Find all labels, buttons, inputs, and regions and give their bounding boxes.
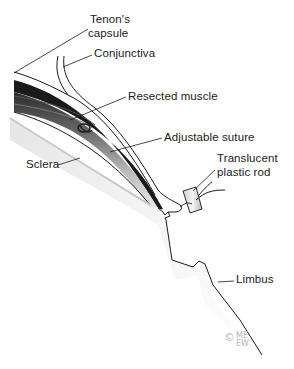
- copyright-symbol: ©: [224, 334, 235, 342]
- leader-adjustable-suture: [110, 138, 162, 152]
- label-translucent-rod-line2: plastic rod: [217, 165, 271, 179]
- copyright-mark-line2: EW: [236, 340, 249, 348]
- label-tenons-capsule-line1: Tenon's: [90, 12, 130, 26]
- label-resected-muscle: Resected muscle: [128, 89, 218, 103]
- label-sclera: Sclera: [26, 157, 59, 171]
- leader-translucent-rod: [193, 170, 215, 191]
- leader-tenons-capsule: [14, 29, 88, 73]
- plastic-rod: [180, 182, 225, 213]
- diagram-canvas: Tenon's capsule Conjunctiva Resected mus…: [0, 0, 294, 369]
- label-adjustable-suture: Adjustable suture: [164, 130, 255, 144]
- label-conjunctiva: Conjunctiva: [94, 46, 155, 60]
- leader-conjunctiva: [63, 55, 92, 67]
- label-translucent-rod-line1: Translucent: [217, 151, 278, 165]
- leader-limbus: [218, 281, 234, 282]
- label-tenons-capsule-line2: capsule: [88, 26, 128, 40]
- label-limbus: Limbus: [236, 272, 274, 286]
